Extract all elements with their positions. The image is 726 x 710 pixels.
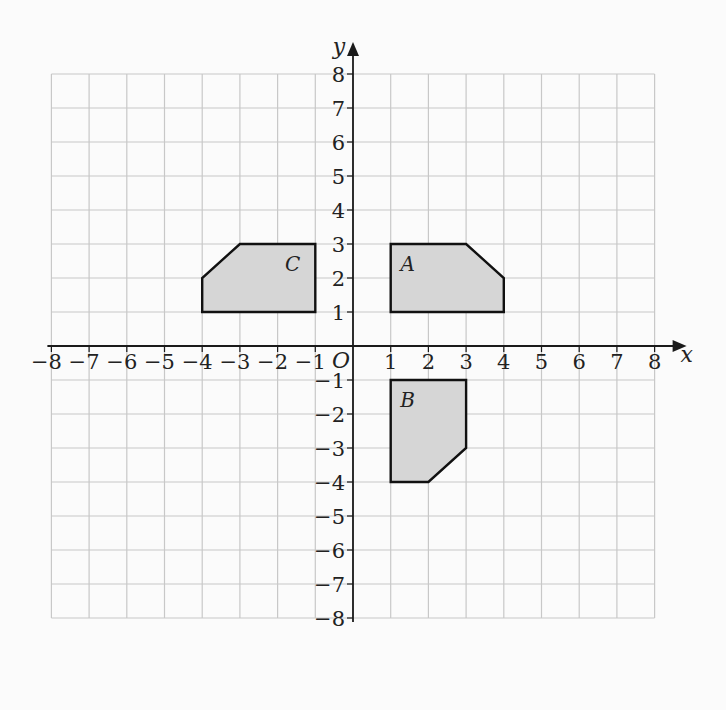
x-tick-label: −5	[144, 350, 175, 374]
y-tick-label: 5	[332, 165, 345, 189]
x-tick-label: 1	[384, 350, 397, 374]
x-tick-label: 4	[497, 350, 510, 374]
y-axis-arrow-icon	[347, 42, 359, 56]
x-tick-label: 8	[648, 350, 661, 374]
y-tick-label: −3	[314, 437, 345, 461]
tick-labels: −8−7−6−5−4−3−2−11234567887654321−1−2−3−4…	[31, 34, 693, 631]
x-tick-label: 2	[422, 350, 435, 374]
y-tick-label: 6	[332, 131, 345, 155]
y-tick-label: −7	[314, 573, 345, 597]
x-tick-label: 7	[610, 350, 623, 374]
x-tick-label: −6	[106, 350, 137, 374]
y-tick-label: −4	[314, 471, 345, 495]
x-tick-label: −4	[182, 350, 213, 374]
y-tick-label: 2	[332, 267, 345, 291]
y-tick-label: 3	[332, 233, 345, 257]
y-tick-label: 4	[332, 199, 345, 223]
y-tick-label: −5	[314, 505, 345, 529]
axes	[47, 42, 686, 622]
y-tick-label: −6	[314, 539, 345, 563]
x-tick-label: 3	[459, 350, 472, 374]
y-axis-label: y	[332, 34, 346, 59]
x-axis-label: x	[680, 342, 693, 367]
y-tick-label: −2	[314, 403, 345, 427]
x-tick-label: −2	[257, 350, 288, 374]
y-tick-label: 7	[332, 97, 345, 121]
shape-label-c: C	[285, 252, 300, 276]
shape-label-a: A	[398, 252, 414, 276]
x-tick-label: −3	[219, 350, 250, 374]
x-tick-label: −7	[69, 350, 100, 374]
origin-label: O	[332, 348, 350, 373]
coordinate-grid-diagram: ABC −8−7−6−5−4−3−2−11234567887654321−1−2…	[0, 0, 726, 710]
shape-label-b: B	[399, 388, 415, 412]
x-tick-label: 5	[535, 350, 548, 374]
y-tick-label: −8	[314, 607, 345, 631]
x-tick-label: −8	[31, 350, 62, 374]
y-tick-label: 1	[332, 301, 345, 325]
y-tick-label: 8	[332, 63, 345, 87]
x-tick-label: 6	[573, 350, 586, 374]
